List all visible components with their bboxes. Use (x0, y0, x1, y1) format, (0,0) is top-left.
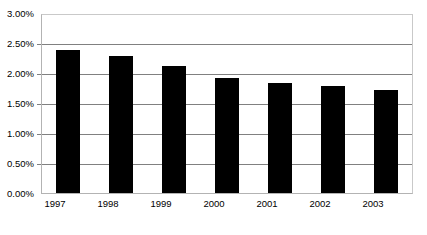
x-axis-label-1998: 1998 (82, 199, 134, 209)
y-axis-label-1: 0.50% (7, 159, 34, 169)
y-axis-label-5: 2.50% (7, 39, 34, 49)
y-axis-label-0: 0.00% (7, 189, 34, 199)
x-axis-label-2003: 2003 (347, 199, 399, 209)
x-axis-label-2001: 2001 (241, 199, 293, 209)
bar-chart: 0.00% 0.50% 1.00% 1.50% 2.00% 2.50% 3.00… (0, 0, 427, 235)
plot-area (41, 14, 413, 194)
y-axis-label-3: 1.50% (7, 99, 34, 109)
bar-1999 (162, 66, 186, 193)
y-axis-label-4: 2.00% (7, 69, 34, 79)
bar-2003 (374, 90, 398, 193)
bar-1997 (56, 50, 80, 193)
x-axis-label-2000: 2000 (188, 199, 240, 209)
bar-2002 (321, 86, 345, 193)
x-axis-label-2002: 2002 (294, 199, 346, 209)
bar-1998 (109, 56, 133, 193)
x-axis-label-1997: 1997 (29, 199, 81, 209)
gridline-2.00 (42, 74, 412, 75)
x-axis-label-1999: 1999 (135, 199, 187, 209)
bar-2000 (215, 78, 239, 193)
y-axis-label-2: 1.00% (7, 129, 34, 139)
gridline-2.50 (42, 44, 412, 45)
bar-2001 (268, 83, 292, 193)
y-axis-label-6: 3.00% (7, 9, 34, 19)
